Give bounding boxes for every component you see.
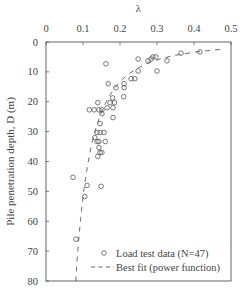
plot-axes: 00.10.20.30.40.501020304050607080λPile p… <box>4 2 238 287</box>
y-tick-label: 40 <box>28 156 39 167</box>
data-point-circle <box>106 82 111 87</box>
data-point-circle <box>111 105 116 110</box>
data-point-circle <box>108 100 113 105</box>
data-point-circle <box>96 100 101 105</box>
legend: Load test data (N=47) Best fit (power fu… <box>91 248 221 274</box>
data-point-circle <box>85 183 90 188</box>
best-fit-line <box>76 50 220 282</box>
best-fit-curve <box>76 50 220 282</box>
data-point-circle <box>97 145 102 150</box>
data-point-circle <box>99 184 104 189</box>
data-point-circle <box>98 121 103 126</box>
y-tick-label: 10 <box>28 66 39 77</box>
x-axis-title: λ <box>136 2 142 14</box>
y-tick-label: 60 <box>28 216 39 227</box>
plot-frame <box>46 42 231 281</box>
data-point-circle <box>155 69 160 74</box>
y-tick-label: 0 <box>33 37 38 48</box>
data-point-circle <box>103 139 108 144</box>
data-point-circle <box>179 51 184 56</box>
data-point-circle <box>92 108 97 113</box>
data-point-circle <box>104 62 109 67</box>
y-tick-label: 70 <box>28 246 39 257</box>
x-tick-label: 0.3 <box>150 23 163 34</box>
y-tick-label: 20 <box>28 96 39 107</box>
data-point-circle <box>136 57 141 62</box>
data-point-circle <box>96 154 101 159</box>
data-point-circle <box>136 69 141 74</box>
x-tick-label: 0.1 <box>76 23 89 34</box>
legend-circle-marker-icon <box>102 251 107 256</box>
chart-svg: 00.10.20.30.40.501020304050607080λPile p… <box>0 0 247 300</box>
data-points <box>71 50 203 242</box>
y-tick-label: 50 <box>28 186 39 197</box>
x-tick-label: 0 <box>43 23 48 34</box>
y-tick-label: 80 <box>28 276 39 287</box>
data-point-circle <box>105 105 110 110</box>
data-point-circle <box>110 96 115 101</box>
data-point-circle <box>165 59 170 64</box>
data-point-circle <box>112 100 117 105</box>
data-point-circle <box>111 115 116 120</box>
data-point-circle <box>83 194 88 199</box>
y-tick-label: 30 <box>28 126 39 137</box>
legend-data-label: Load test data (N=47) <box>116 248 209 260</box>
x-tick-label: 0.5 <box>224 23 237 34</box>
data-point-circle <box>71 175 76 180</box>
x-tick-label: 0.2 <box>113 23 126 34</box>
y-axis-title: Pile penetration depth, D (m) <box>4 97 17 226</box>
legend-fit-label: Best fit (power function) <box>116 262 221 274</box>
data-point-circle <box>87 108 92 113</box>
data-point-circle <box>121 94 126 99</box>
x-tick-label: 0.4 <box>187 23 201 34</box>
data-point-circle <box>74 237 79 242</box>
